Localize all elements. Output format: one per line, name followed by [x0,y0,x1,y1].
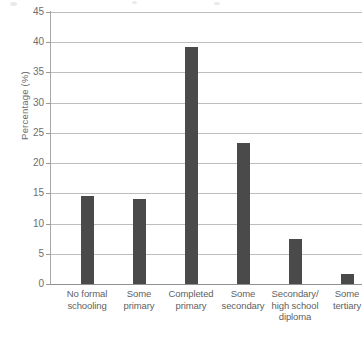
bar [133,199,146,284]
gridline [50,103,362,104]
scan-artifact [10,2,17,6]
y-axis-tick [46,224,51,225]
x-axis-category-label-line: diploma [259,311,331,323]
scan-artifact [214,2,220,5]
x-axis-category-label-line: Some [311,288,364,300]
y-axis-line [50,11,51,285]
bar [81,196,94,284]
bar [185,47,198,284]
y-axis-tick-label: 40 [4,37,44,47]
y-axis-tick-label: 35 [4,67,44,77]
scan-artifact [132,1,137,4]
y-axis-tick [46,72,51,73]
bar [289,239,302,284]
y-axis-tick-label: 20 [4,158,44,168]
bar [341,274,354,284]
y-axis-tick-label: 15 [4,188,44,198]
y-axis-tick-label: 10 [4,219,44,229]
gridline [50,224,362,225]
gridline [50,254,362,255]
y-axis-tick [46,103,51,104]
y-axis-tick [46,42,51,43]
y-axis-tick [46,254,51,255]
y-axis-tick-label: 0 [4,279,44,289]
x-axis-category-label-line: tertiary [311,300,364,312]
gridline [50,193,362,194]
gridline [50,163,362,164]
y-axis-tick-label: 30 [4,98,44,108]
y-axis-tick-label: 5 [4,249,44,259]
gridline [50,12,362,13]
y-axis-tick-label: 25 [4,128,44,138]
x-axis-category-label: Sometertiary [311,288,364,311]
y-axis-tick [46,12,51,13]
bar [237,143,250,284]
gridline [50,72,362,73]
y-axis-tick [46,284,51,285]
y-axis-tick [46,163,51,164]
gridline [50,133,362,134]
y-axis-tick [46,133,51,134]
plot-area: 454035302520151050 [50,12,362,284]
y-axis-tick [46,193,51,194]
x-axis-baseline [50,284,362,285]
bar-chart: Percentage (%) 454035302520151050 No for… [0,0,364,338]
gridline [50,42,362,43]
y-axis-tick-label: 45 [4,7,44,17]
